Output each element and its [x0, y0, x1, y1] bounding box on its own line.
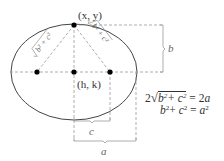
- brace-b: [160, 25, 165, 72]
- brace-b-label: b: [168, 43, 174, 54]
- equation-2: b2+ c2 = a2: [160, 105, 209, 117]
- ellipse-diagram: b² + c² b² + c²: [0, 0, 224, 161]
- brace-c-label: c: [89, 126, 94, 137]
- top-point-label: (x, y): [78, 10, 102, 21]
- center-point: [71, 69, 76, 74]
- left-focus: [34, 69, 39, 74]
- equation-1: 2√b2+ c2 = 2a: [145, 91, 210, 105]
- top-point: [71, 22, 76, 27]
- center-label: (h, k): [77, 79, 101, 90]
- right-focus: [107, 69, 112, 74]
- brace-c: [74, 118, 110, 123]
- brace-a-label: a: [101, 146, 107, 157]
- brace-a: [74, 138, 136, 143]
